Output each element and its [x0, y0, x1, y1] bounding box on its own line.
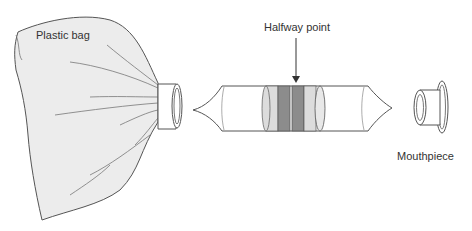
breathalyzer-diagram: Plastic bag Halfway point Mouthpiece — [0, 0, 472, 231]
detector-tube — [193, 86, 392, 131]
mouthpiece-label: Mouthpiece — [397, 150, 454, 162]
plastic-bag-shape — [15, 17, 158, 220]
plastic-bag-label: Plastic bag — [36, 29, 90, 41]
mouthpiece — [414, 81, 448, 133]
halfway-arrow — [292, 38, 300, 83]
bag-connector — [158, 84, 182, 129]
halfway-point-label: Halfway point — [264, 21, 330, 33]
